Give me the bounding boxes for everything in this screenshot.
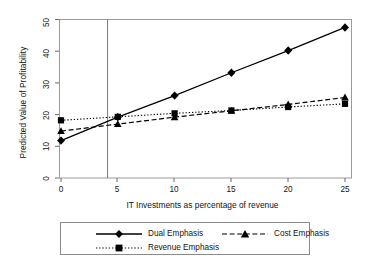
x-tick-label-20: 20 [276, 185, 300, 194]
legend-label-dual-emphasis: Dual Emphasis [148, 229, 203, 238]
chart-legend: Dual Emphasis Cost Emphasis Revenue Emph… [60, 222, 310, 255]
x-tick-label-25: 25 [333, 185, 357, 194]
x-tick-label-0: 0 [49, 185, 73, 194]
legend-key-solid-diamond-icon [95, 228, 143, 240]
x-axis-title: IT Investments as percentage of revenue [59, 200, 346, 210]
chart-figure: Predicted Value of Profitability 0 10 20… [0, 0, 365, 266]
x-axis-ticks [61, 178, 345, 182]
legend-item-cost-emphasis: Cost Emphasis [221, 227, 329, 240]
legend-label-cost-emphasis: Cost Emphasis [274, 229, 329, 238]
x-tick-label-15: 15 [219, 185, 243, 194]
legend-key-dotted-square-icon [95, 242, 143, 254]
legend-label-revenue-emphasis: Revenue Emphasis [148, 243, 219, 252]
legend-key-dashed-triangle-icon [221, 228, 269, 240]
x-tick-label-10: 10 [162, 185, 186, 194]
legend-item-revenue-emphasis: Revenue Emphasis [95, 241, 219, 254]
y-axis-ticks [55, 20, 59, 179]
x-tick-label-5: 5 [105, 185, 129, 194]
legend-item-dual-emphasis: Dual Emphasis [95, 227, 203, 240]
